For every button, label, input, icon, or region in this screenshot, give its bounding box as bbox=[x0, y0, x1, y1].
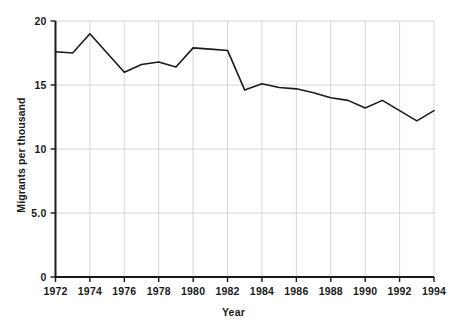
y-tick-label: 20 bbox=[13, 16, 47, 26]
line-chart: 2015105.00 19721974197619781980198219841… bbox=[0, 0, 467, 326]
plot-area bbox=[0, 0, 467, 326]
x-axis-title: Year bbox=[0, 306, 467, 318]
data-series-line bbox=[56, 34, 435, 121]
y-axis-title: Migrants per thousand bbox=[15, 90, 27, 220]
series-polyline bbox=[56, 34, 435, 121]
axis-ticks bbox=[51, 21, 435, 282]
x-tick-label: 1994 bbox=[414, 286, 454, 296]
y-tick-label: 15 bbox=[13, 80, 47, 90]
y-tick-label: 0 bbox=[13, 272, 47, 282]
